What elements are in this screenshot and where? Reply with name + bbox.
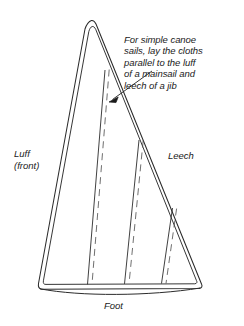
foot-label: Foot — [104, 300, 123, 311]
luff-label: Luff (front) — [14, 148, 39, 171]
cloth-layout-note: For simple canoe sails, lay the cloths p… — [124, 34, 203, 91]
leech-label: Leech — [168, 150, 194, 161]
